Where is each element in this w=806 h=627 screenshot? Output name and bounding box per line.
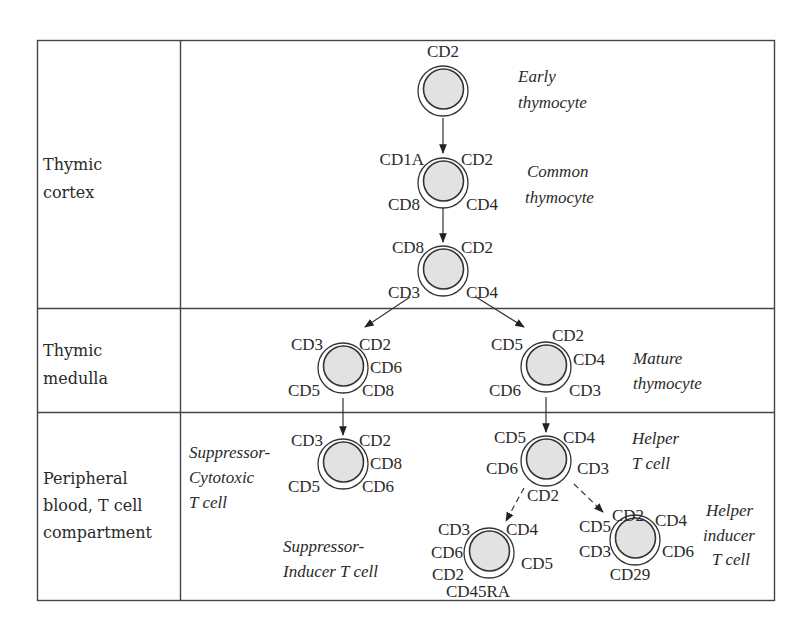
cell-description: Mature thymocyte (632, 349, 702, 393)
cell-early-thymocyte: CD2 Early thymocyte (418, 42, 587, 116)
cell-description: Suppressor- Inducer T cell (282, 537, 378, 581)
marker-label: CD2 (612, 506, 644, 525)
marker-label: CD5 (491, 335, 523, 354)
marker-label: CD6 (489, 381, 521, 400)
marker-label: CD6 (362, 477, 394, 496)
marker-label: CD8 (370, 454, 402, 473)
marker-label: CD29 (610, 565, 651, 584)
marker-label: CD5 (494, 428, 526, 447)
marker-label: CD5 (579, 517, 611, 536)
marker-label: CD2 (552, 326, 584, 345)
marker-label: CD3 (438, 520, 470, 539)
marker-label: CD3 (388, 283, 420, 302)
marker-label: CD8 (362, 381, 394, 400)
marker-label: CD3 (577, 459, 609, 478)
marker-label: CD2 (359, 431, 391, 450)
marker-label: CD5 (288, 477, 320, 496)
cell-cortex-stage3: CD8 CD2 CD3 CD4 (388, 238, 499, 302)
marker-label: CD2 (527, 486, 559, 505)
marker-label: CD6 (662, 542, 694, 561)
marker-label: CD4 (573, 350, 606, 369)
marker-label: CD4 (506, 520, 539, 539)
marker-label: CD8 (392, 238, 424, 257)
marker-label: CD6 (431, 543, 463, 562)
cell-mature-thymocyte: CD5 CD2 CD4 CD6 CD3 Mature thymocyte (489, 326, 702, 400)
cell-suppressor-cytotoxic: CD3 CD2 CD8 CD5 CD6 Suppressor- Cytotoxi… (189, 431, 402, 512)
cell-helper-inducer: CD2 CD4 CD5 CD3 CD6 CD29 Helper inducer … (579, 501, 759, 584)
marker-label: CD5 (521, 554, 553, 573)
arrow-helper-to-suppressor-inducer (506, 488, 524, 521)
marker-label: CD4 (466, 195, 499, 214)
cell-description: Early thymocyte (517, 67, 587, 112)
t-cell-differentiation-diagram: Thymic cortex Thymic medulla Peripheral … (0, 0, 806, 627)
cell-common-thymocyte: CD1A CD2 CD8 CD4 Common thymocyte (380, 150, 595, 214)
marker-label: CD5 (288, 381, 320, 400)
marker-label: CD3 (291, 431, 323, 450)
cell-medulla-left: CD3 CD2 CD6 CD5 CD8 (288, 335, 402, 400)
marker-label: CD8 (388, 195, 420, 214)
row-label-peripheral-blood: Peripheral blood, T cell compartment (43, 469, 153, 542)
cell-description: Helper inducer T cell (703, 501, 759, 569)
marker-label: CD2 (359, 335, 391, 354)
cell-suppressor-inducer: CD3 CD4 CD6 CD5 CD2 CD45RA Suppressor- I… (282, 520, 553, 601)
marker-label: CD3 (291, 335, 323, 354)
marker-label: CD4 (563, 428, 596, 447)
marker-label: CD4 (655, 511, 688, 530)
row-label-thymic-cortex: Thymic cortex (43, 155, 107, 202)
cell-helper-t-cell: CD5 CD4 CD6 CD3 CD2 Helper T cell (486, 428, 684, 505)
cell-description: Suppressor- Cytotoxic T cell (189, 443, 274, 512)
marker-label: CD2 (427, 42, 459, 61)
marker-label: CD2 (461, 150, 493, 169)
cell-description: Helper T cell (631, 429, 683, 473)
marker-label: CD3 (569, 381, 601, 400)
marker-label: CD6 (370, 358, 402, 377)
marker-label: CD3 (579, 542, 611, 561)
marker-label: CD6 (486, 459, 518, 478)
marker-label: CD2 (461, 238, 493, 257)
cell-description: Common thymocyte (525, 162, 594, 207)
marker-label: CD4 (466, 283, 499, 302)
arrow-helper-to-helper-inducer (574, 484, 603, 512)
row-label-thymic-medulla: Thymic medulla (43, 341, 108, 388)
marker-label: CD1A (380, 150, 425, 169)
marker-label: CD45RA (446, 582, 511, 601)
